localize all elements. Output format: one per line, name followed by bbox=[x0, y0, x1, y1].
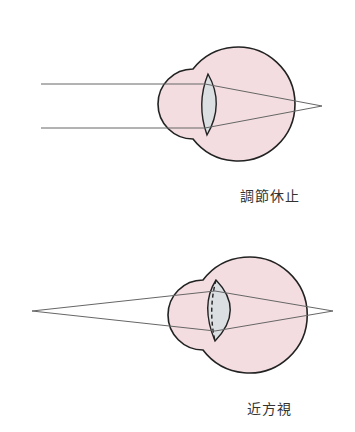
label-near-vision: 近方視 bbox=[247, 398, 292, 418]
eyeball-near bbox=[168, 257, 307, 373]
eyeball-relaxed bbox=[158, 47, 295, 161]
label-relaxed: 調節休止 bbox=[240, 185, 300, 205]
eye-near-vision bbox=[32, 257, 333, 373]
eye-relaxed bbox=[41, 47, 322, 161]
eye-accommodation-diagram bbox=[0, 0, 355, 432]
